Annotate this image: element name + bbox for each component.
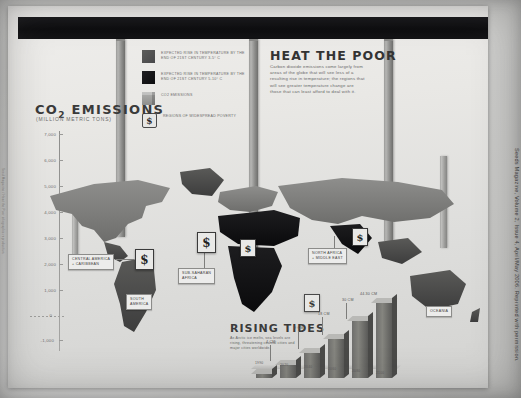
landmass-southeast-asia bbox=[378, 238, 422, 264]
co2-axis-units: (MILLION METRIC TONS) bbox=[36, 116, 112, 122]
leader-line bbox=[116, 259, 134, 260]
bar-year-label: 2060 bbox=[328, 367, 336, 371]
landmass-asia bbox=[278, 178, 454, 224]
landmass-greenland bbox=[180, 168, 224, 196]
map-label-north-africa-middle-east: NORTH AFRICA+ MIDDLE EAST bbox=[308, 248, 347, 264]
co2-axis-title-rest: EMISSIONS bbox=[66, 102, 164, 117]
top-black-banner bbox=[18, 17, 488, 39]
landmass-europe bbox=[218, 186, 278, 212]
rising-tides-bar bbox=[328, 338, 344, 378]
infographic-page: EXPECTED RISE IN TEMPERATURE BY THE END … bbox=[0, 0, 521, 398]
bar-side-face bbox=[368, 312, 373, 378]
legend: EXPECTED RISE IN TEMPERATURE BY THE END … bbox=[142, 50, 246, 136]
poster-canvas: EXPECTED RISE IN TEMPERATURE BY THE END … bbox=[8, 6, 488, 388]
swatch-black-icon bbox=[142, 71, 155, 84]
map-label-oceania: OCEANIA bbox=[426, 306, 452, 317]
bar-value-leader bbox=[322, 317, 323, 335]
map-label-central-america-caribbean: CENTRAL AMERICA+ CARIBBEAN bbox=[68, 254, 114, 270]
bar-side-face bbox=[320, 344, 325, 378]
poverty-badge: $ bbox=[240, 239, 256, 257]
axis-tick-label: 7,000 bbox=[34, 132, 56, 137]
co2-axis-title-main: CO bbox=[35, 102, 58, 117]
bar-year-label: 2100 bbox=[376, 371, 384, 375]
bar-value-label: 4 CM bbox=[266, 340, 275, 344]
poverty-badge: $ bbox=[197, 232, 216, 253]
legend-item-temp-5-10: EXPECTED RISE IN TEMPERATURE BY THE END … bbox=[142, 71, 246, 84]
bar-value-label: 9 CM bbox=[294, 326, 303, 330]
map-label-sub-saharan-africa: SUB-SAHARANAFRICA bbox=[178, 268, 215, 284]
landmass-new-zealand bbox=[470, 308, 480, 322]
bar-side-face bbox=[272, 365, 277, 378]
bar-value-leader bbox=[298, 331, 299, 349]
legend-item-label: REGIONS OF WIDESPREAD POVERTY bbox=[163, 113, 236, 119]
landmass-oceania bbox=[410, 270, 466, 310]
credit-line: Seeds Magazine, Volume 2, Issue 4, April… bbox=[514, 148, 520, 362]
swatch-dark-grey-icon bbox=[142, 50, 155, 63]
legend-item-label: EXPECTED RISE IN TEMPERATURE BY THE END … bbox=[161, 71, 246, 82]
landmass-north-america bbox=[50, 180, 170, 242]
bar-year-label: 2040 bbox=[304, 365, 312, 369]
leader-line bbox=[334, 236, 335, 248]
bar-value-leader bbox=[346, 303, 347, 319]
headline-body: Carbon dioxide emissions come largely fr… bbox=[270, 64, 366, 95]
page-title: HEAT THE POOR bbox=[270, 48, 397, 63]
bar-side-face bbox=[392, 294, 397, 378]
bar-side-face bbox=[344, 330, 349, 378]
legend-item-temp-3-5: EXPECTED RISE IN TEMPERATURE BY THE END … bbox=[142, 50, 246, 63]
rising-tides-bar bbox=[256, 373, 272, 378]
bar-value-leader bbox=[270, 345, 271, 361]
rising-tides-bar bbox=[376, 302, 392, 378]
rising-tides-chart bbox=[256, 292, 396, 378]
bar-side-face bbox=[296, 356, 301, 378]
landmass-north-africa-middle-east bbox=[218, 210, 300, 246]
bar-value-label: 30 CM bbox=[342, 298, 354, 302]
bar-value-label: 44.30 CM bbox=[360, 292, 377, 296]
poverty-badge: $ bbox=[352, 228, 368, 246]
axis-tick bbox=[59, 134, 63, 135]
bar-value-label: 18 CM bbox=[318, 312, 330, 316]
legend-item-label: CO2 EMISSIONS bbox=[161, 92, 193, 98]
poverty-badge: $ bbox=[135, 249, 154, 270]
bar-year-label: 2020 bbox=[280, 363, 288, 367]
legend-item-label: EXPECTED RISE IN TEMPERATURE BY THE END … bbox=[161, 50, 246, 61]
axis-tick-label: 6,000 bbox=[34, 158, 56, 163]
bar-year-label: 2080 bbox=[352, 369, 360, 373]
bar-year-label: 1990 bbox=[255, 361, 263, 365]
credit-line-left: Seed Magazine / Heat the Poor infographi… bbox=[1, 168, 5, 254]
map-label-south-america: SOUTHAMERICA bbox=[126, 294, 152, 310]
axis-tick bbox=[59, 160, 63, 161]
